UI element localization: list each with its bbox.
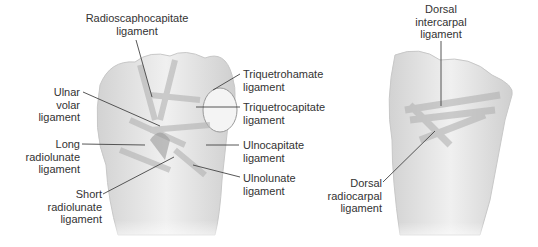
dorsal-wrist-drawing xyxy=(385,51,515,247)
label-ulnolunate-ligament: Ulnolunate ligament xyxy=(243,172,296,197)
label-radioscaphocapitate-ligament: Radioscaphocapitate ligament xyxy=(82,12,192,37)
label-dorsal-intercarpal-ligament: Dorsal intercarpal ligament xyxy=(405,3,477,41)
label-long-radiolunate-ligament: Long radiolunate ligament xyxy=(10,138,80,176)
label-dorsal-radiocarpal-ligament: Dorsal radiocarpal ligament xyxy=(310,177,382,215)
palmar-wrist-drawing xyxy=(97,52,237,247)
label-triquetrocapitate-ligament: Triquetrocapitate ligament xyxy=(243,101,325,126)
label-ulnar-volar-ligament: Ulnar volar ligament xyxy=(10,86,80,124)
label-ulnocapitate-ligament: Ulnocapitate ligament xyxy=(243,139,304,164)
label-short-radiolunate-ligament: Short radiolunate ligament xyxy=(30,188,102,226)
label-triquetrohamate-ligament: Triquetrohamate ligament xyxy=(243,68,323,93)
